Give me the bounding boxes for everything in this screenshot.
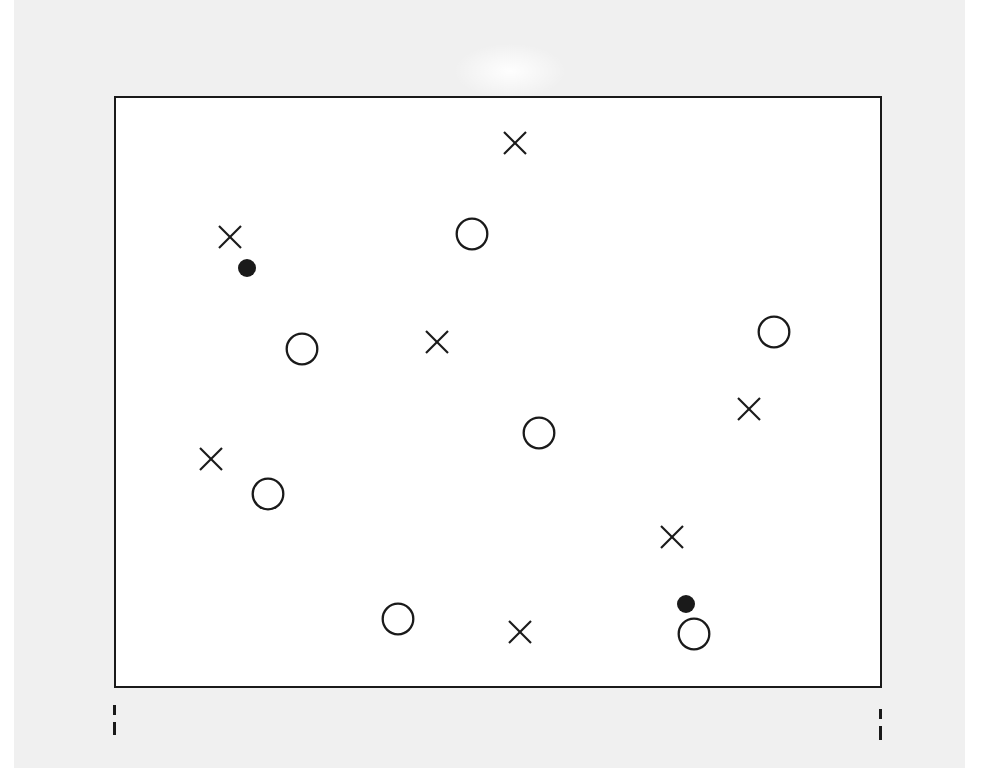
figure-root [0,0,991,784]
scan-gutter-right [965,0,991,784]
plot-area [116,98,880,686]
cross-marker [196,444,226,474]
scan-gutter-bottom [0,768,991,784]
cross-marker [657,522,687,552]
plot-frame [114,96,882,688]
scan-gutter-left [0,0,14,784]
cross-marker [734,394,764,424]
open-circle-marker [378,599,419,640]
open-circle-marker [754,312,795,353]
axis-tick-right [879,709,882,740]
cross-marker [505,617,535,647]
open-circle-marker [282,329,323,370]
axis-tick-left [113,705,116,735]
open-circle-marker [452,214,493,255]
open-circle-marker [674,614,715,655]
open-circle-marker [248,474,289,515]
cross-marker [215,222,245,252]
cross-marker [500,128,530,158]
filled-circle-marker [234,255,260,281]
filled-circle-marker [673,591,699,617]
open-circle-marker [519,413,560,454]
cross-marker [422,327,452,357]
